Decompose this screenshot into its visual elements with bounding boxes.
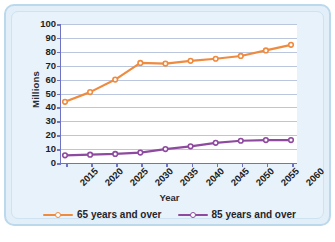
legend-label: 65 years and over: [77, 209, 162, 220]
x-tick-label: 2020: [103, 166, 125, 188]
data-point: [63, 153, 68, 158]
y-tick-label: 30: [28, 117, 56, 127]
data-point: [88, 90, 93, 95]
y-tick-label: 40: [28, 103, 56, 113]
data-point: [289, 43, 294, 48]
y-tick-label: 90: [28, 33, 56, 43]
data-point: [289, 138, 294, 143]
x-tick-label: 2060: [304, 166, 326, 188]
chart-legend: 65 years and over85 years and over: [6, 209, 333, 220]
data-point: [113, 152, 118, 157]
legend-item: 65 years and over: [43, 209, 162, 220]
y-tick-label: 20: [28, 130, 56, 140]
series-line: [65, 45, 291, 102]
data-point: [63, 100, 68, 105]
y-tick-label: 10: [28, 144, 56, 154]
data-point: [213, 141, 218, 146]
data-point: [264, 48, 269, 53]
data-point: [238, 54, 243, 59]
series-layer: [60, 24, 296, 163]
y-tick-label: 80: [28, 47, 56, 57]
series-2: [63, 138, 294, 158]
legend-label: 85 years and over: [212, 209, 297, 220]
x-tick-label: 2040: [204, 166, 226, 188]
data-point: [113, 77, 118, 82]
data-point: [213, 56, 218, 61]
x-tick-label: 2015: [78, 166, 100, 188]
data-point: [238, 138, 243, 143]
legend-swatch-icon: [43, 210, 73, 219]
y-axis-tick-labels: 0102030405060708090100: [28, 24, 56, 163]
y-tick-label: 50: [28, 89, 56, 99]
y-tick-label: 100: [28, 19, 56, 29]
series-1: [63, 43, 294, 105]
x-axis-tick-labels: 2015202020252030203520402045205020552060: [60, 166, 310, 194]
x-tick-label: 2035: [179, 166, 201, 188]
data-point: [163, 147, 168, 152]
x-tick-label: 2030: [154, 166, 176, 188]
data-point: [163, 61, 168, 66]
data-point: [264, 138, 269, 143]
data-point: [188, 144, 193, 149]
x-tick-label: 2055: [279, 166, 301, 188]
y-tick-label: 60: [28, 75, 56, 85]
legend-item: 85 years and over: [178, 209, 297, 220]
data-point: [138, 150, 143, 155]
y-tick-label: 70: [28, 61, 56, 71]
x-tick-label: 2025: [128, 166, 150, 188]
x-tick-label: 2050: [254, 166, 276, 188]
legend-swatch-icon: [178, 210, 208, 219]
y-tick-label: 0: [28, 158, 56, 168]
data-point: [188, 59, 193, 64]
series-line: [65, 140, 291, 155]
figure-frame: Millions 0102030405060708090100 20152020…: [4, 4, 331, 226]
x-axis-title: Year: [6, 192, 333, 203]
x-tick-label: 2045: [229, 166, 251, 188]
line-chart: Millions 0102030405060708090100 20152020…: [6, 6, 333, 228]
data-point: [88, 152, 93, 157]
data-point: [138, 61, 143, 66]
y-tick-mark: [57, 163, 61, 165]
